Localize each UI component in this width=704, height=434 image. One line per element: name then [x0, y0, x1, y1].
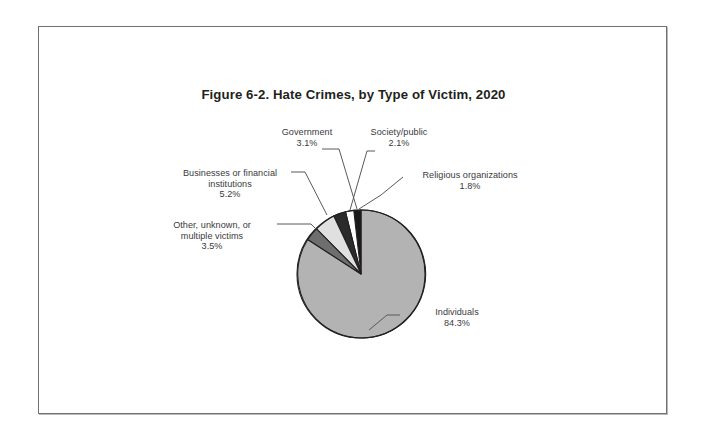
pie-chart: Government 3.1% Society/public 2.1% Reli…: [39, 27, 668, 415]
leader-line-other: [277, 224, 316, 229]
leader-line-religious-organizations: [359, 177, 403, 209]
pie-label-other-unknown-or-multiple-victims: Other, unknown, or multiple victims 3.5%: [145, 220, 279, 252]
leader-line-businesses: [291, 172, 327, 215]
pie-svg: [39, 27, 668, 415]
figure-root: Figure 6-2. Hate Crimes, by Type of Vict…: [0, 0, 704, 434]
pie-label-society-public: Society/public 2.1%: [347, 127, 451, 148]
pie-label-religious-organizations: Religious organizations 1.8%: [405, 170, 535, 191]
leader-line-government: [322, 149, 357, 209]
pie-label-businesses-or-financial-institutions: Businesses or financial institutions 5.2…: [165, 168, 295, 200]
figure-frame: Figure 6-2. Hate Crimes, by Type of Vict…: [38, 26, 667, 414]
pie-label-government: Government 3.1%: [255, 127, 359, 148]
pie-label-individuals: Individuals 84.3%: [402, 307, 512, 328]
